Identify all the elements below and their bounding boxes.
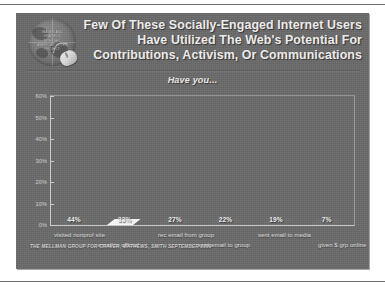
chart-subtitle: Have you... <box>16 75 369 85</box>
slide-title: Few Of These Socially-Engaged Internet U… <box>62 18 362 63</box>
page-divider-top <box>0 4 385 5</box>
chart-bars: 44%33%27%22%19%7% <box>51 96 354 225</box>
title-line-2: Have Utilized The Web's Potential For <box>62 33 362 48</box>
chart-category-labels: visited nonprof siteemail to officialrec… <box>50 232 363 254</box>
title-line-1: Few Of These Socially-Engaged Internet U… <box>62 18 362 33</box>
y-axis-tick: 50% <box>36 115 52 121</box>
category-label: rec email from group <box>158 232 214 238</box>
y-axis-tick: 60% <box>36 93 52 99</box>
bar-value-label: 44% <box>57 216 91 223</box>
page-divider-bottom <box>0 281 385 282</box>
presentation-slide: IMAGES AND GRAPHICS INTERNET AMERICAN VO… <box>16 13 369 269</box>
source-footer: THE MELLMAN GROUP FOR CRAVER, MATHEWS, S… <box>30 244 212 249</box>
y-axis-tick: 20% <box>36 179 52 185</box>
title-line-3: Contributions, Activism, Or Communicatio… <box>62 48 362 63</box>
category-label: given $ grp online <box>318 242 366 248</box>
y-axis-tick: 40% <box>36 136 52 142</box>
chart-plot-area: 44%33%27%22%19%7% 60%50%40%30%20%10%0% <box>50 95 355 226</box>
screenshot-page: IMAGES AND GRAPHICS INTERNET AMERICAN VO… <box>0 0 385 297</box>
category-label: sent email to media <box>258 232 311 238</box>
bar-value-label: 27% <box>158 216 192 223</box>
bar-value-label: 19% <box>259 216 293 223</box>
y-axis-tick: 10% <box>36 201 52 207</box>
y-axis-tick: 30% <box>36 158 52 164</box>
bar-value-label: 7% <box>310 216 344 223</box>
bar-chart: 44%33%27%22%19%7% 60%50%40%30%20%10%0% v… <box>22 89 363 241</box>
title-divider <box>26 70 359 71</box>
y-axis-tick: 0% <box>39 222 51 228</box>
category-label: visited nonprof site <box>54 232 105 238</box>
bar-value-label: 33% <box>107 216 141 223</box>
bar-value-label: 22% <box>209 216 243 223</box>
